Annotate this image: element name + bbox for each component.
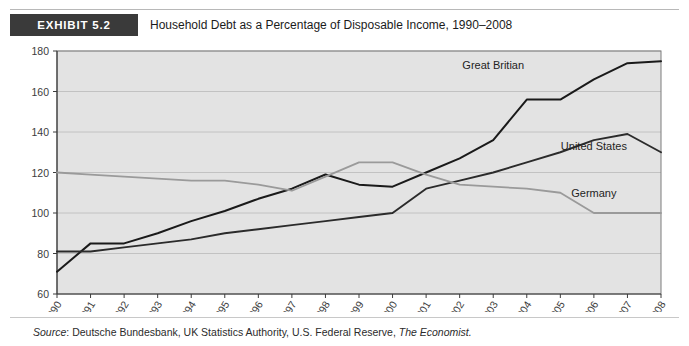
x-axis-tick-label: 1994 — [175, 299, 198, 312]
x-axis-tick-label: 1991 — [75, 299, 98, 312]
exhibit-page: EXHIBIT 5.2 Household Debt as a Percenta… — [0, 0, 689, 346]
source-text: Deutsche Bundesbank, UK Statistics Autho… — [72, 326, 399, 338]
x-axis-tick-label: 1993 — [142, 299, 165, 312]
x-axis-tick-label: 1997 — [276, 299, 299, 312]
x-axis-tick-label: 2003 — [477, 299, 500, 312]
x-axis-tick-label: 2002 — [444, 299, 467, 312]
y-axis-tick-label: 180 — [31, 45, 49, 57]
series-label-great-britian: Great Britian — [462, 59, 524, 71]
x-axis-tick-label: 2004 — [511, 299, 534, 312]
y-axis-tick-label: 80 — [37, 248, 49, 260]
x-axis-tick-label: 1999 — [343, 299, 366, 312]
x-axis-tick-label: 2006 — [578, 299, 601, 312]
x-axis-tick-label: 1990 — [41, 299, 64, 312]
header-divider — [10, 9, 679, 10]
x-axis-tick-label: 1998 — [310, 299, 333, 312]
y-axis-tick-label: 120 — [31, 167, 49, 179]
y-axis-tick-label: 100 — [31, 207, 49, 219]
source-publication: The Economist. — [399, 326, 472, 338]
y-axis-tick-label: 140 — [31, 126, 49, 138]
source-note: Source: Deutsche Bundesbank, UK Statisti… — [33, 326, 472, 338]
exhibit-badge: EXHIBIT 5.2 — [10, 14, 138, 36]
exhibit-badge-label: EXHIBIT 5.2 — [37, 19, 110, 31]
x-axis-tick-label: 2007 — [612, 299, 635, 312]
x-axis-tick-label: 2001 — [410, 299, 433, 312]
x-axis-tick-label: 2000 — [377, 299, 400, 312]
source-divider — [10, 317, 679, 318]
series-label-united-states: United States — [561, 140, 628, 152]
source-prefix: Source — [33, 326, 66, 338]
chart-container: 6080100120140160180199019911992199319941… — [0, 42, 689, 312]
page-title: Household Debt as a Percentage of Dispos… — [150, 18, 512, 32]
line-chart: 6080100120140160180199019911992199319941… — [0, 42, 689, 312]
series-label-germany: Germany — [571, 187, 617, 199]
x-axis-tick-label: 1995 — [209, 299, 232, 312]
x-axis-tick-label: 1996 — [242, 299, 265, 312]
y-axis-tick-label: 60 — [37, 288, 49, 300]
y-axis-tick-label: 160 — [31, 86, 49, 98]
x-axis-tick-label: 2008 — [645, 299, 668, 312]
x-axis-tick-label: 2005 — [544, 299, 567, 312]
x-axis-tick-label: 1992 — [108, 299, 131, 312]
